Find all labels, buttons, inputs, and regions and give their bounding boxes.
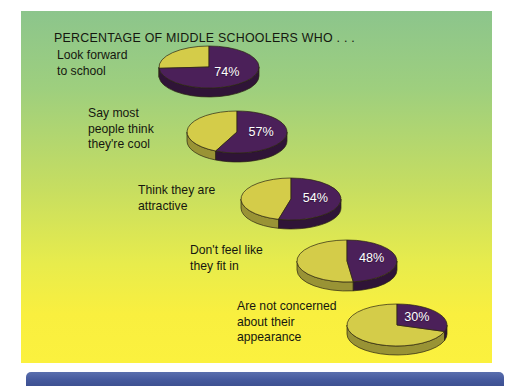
pie-graphic [185,108,295,166]
row-label-line: attractive [138,199,215,215]
pie-chart-4: 48% [295,237,399,291]
pie-chart-3: 54% [239,175,343,229]
row-label-4: Don't feel likethey fit in [190,243,263,274]
chart-panel: PERCENTAGE OF MIDDLE SCHOOLERS WHO . . .… [21,11,492,363]
row-label-2: Say mostpeople thinkthey're cool [88,106,154,153]
pie-chart-5: 30% [345,301,449,355]
row-label-line: Think they are [138,183,215,199]
row-label-line: they fit in [190,259,263,275]
pie-graphic [239,175,349,233]
row-label-line: they're cool [88,137,154,153]
pie-graphic [295,237,405,295]
pie-chart-2: 57% [185,108,289,162]
pie-graphic [157,43,267,101]
row-label-line: Look forward [57,48,127,64]
pie-slice-no [159,46,209,68]
row-label-1: Look forwardto school [57,48,127,79]
row-label-5: Are not concernedabout theirappearance [237,299,337,346]
bottom-accent-bar [26,372,504,386]
row-label-line: appearance [237,330,337,346]
infographic-figure: PERCENTAGE OF MIDDLE SCHOOLERS WHO . . .… [0,0,512,386]
pie-value-label: 48% [359,251,384,265]
row-label-line: Don't feel like [190,243,263,259]
row-label-line: about their [237,315,337,331]
row-label-3: Think they areattractive [138,183,215,214]
pie-value-label: 74% [214,65,239,79]
pie-graphic [345,301,455,359]
pie-value-label: 54% [303,191,328,205]
pie-value-label: 30% [404,310,429,324]
row-label-line: people think [88,122,154,138]
row-label-line: Are not concerned [237,299,337,315]
row-label-line: Say most [88,106,154,122]
row-label-line: to school [57,64,127,80]
pie-chart-1: 74% [157,43,261,97]
pie-value-label: 57% [248,125,273,139]
